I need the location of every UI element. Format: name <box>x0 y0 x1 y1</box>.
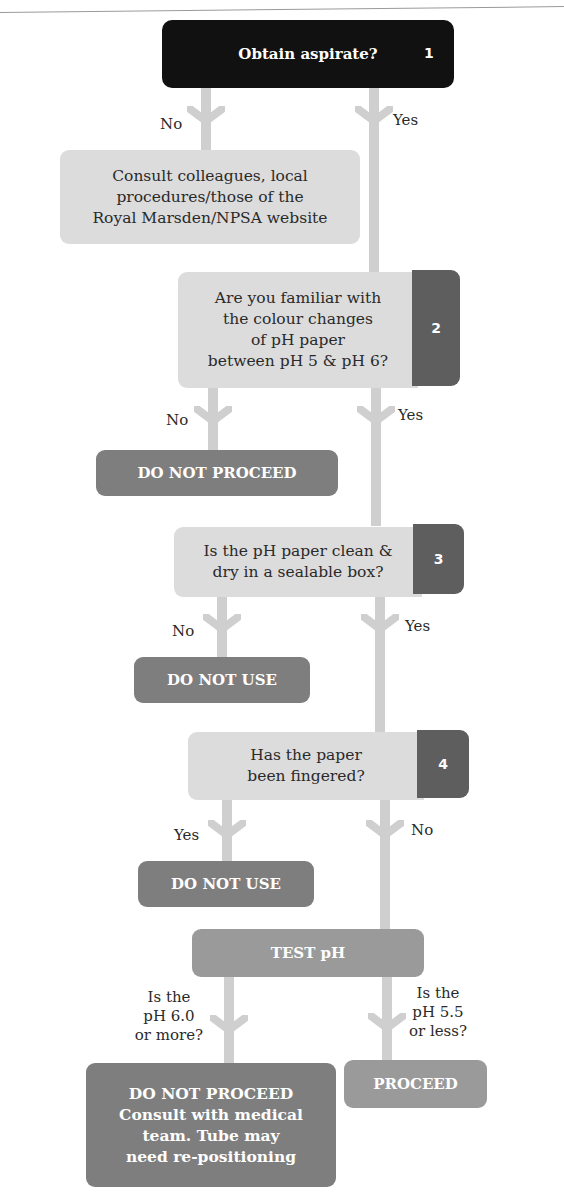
chevron-down-icon <box>357 406 395 426</box>
step-2-line: of pH paper <box>251 330 345 351</box>
chevron-down-icon <box>355 106 393 126</box>
proceed-box: PROCEED <box>344 1060 487 1108</box>
consult-box: Consult colleagues, local procedures/tho… <box>60 150 360 244</box>
high-ph-result-line: DO NOT PROCEED <box>129 1083 293 1104</box>
step-3-line: dry in a sealable box? <box>213 562 384 583</box>
chevron-down-icon <box>203 614 241 634</box>
chevron-down-icon <box>366 820 404 840</box>
chevron-down-icon <box>368 1013 406 1033</box>
step-2-no-label: No <box>166 411 188 430</box>
test-ph-box: TEST pH <box>192 929 424 977</box>
consult-line: Consult colleagues, local <box>112 166 308 187</box>
step-2-box: Are you familiar with the colour changes… <box>178 272 418 388</box>
chevron-down-icon <box>194 406 232 426</box>
do-not-use-text: DO NOT USE <box>171 874 281 894</box>
high-ph-result-box: DO NOT PROCEED Consult with medical team… <box>86 1063 336 1187</box>
chevron-down-icon <box>187 106 225 126</box>
step-1-box: Obtain aspirate? <box>162 20 454 88</box>
low-ph-label-line: or less? <box>402 1022 474 1041</box>
step-4-line: been fingered? <box>247 766 364 787</box>
step-2-line: Are you familiar with <box>215 288 381 309</box>
high-ph-label-line: pH 6.0 <box>124 1007 214 1026</box>
do-not-use-box-1: DO NOT USE <box>134 657 310 703</box>
do-not-proceed-box: DO NOT PROCEED <box>96 450 338 496</box>
step-2-number-tab: 2 <box>412 270 460 386</box>
proceed-text: PROCEED <box>373 1075 458 1093</box>
step-3-line: Is the pH paper clean & <box>203 541 392 562</box>
chevron-down-icon <box>208 820 246 840</box>
step-4-number: 4 <box>438 756 448 772</box>
connector-right-main-d <box>380 797 390 931</box>
high-ph-label-line: or more? <box>124 1026 214 1045</box>
consult-line: procedures/those of the <box>116 187 303 208</box>
step-3-no-label: No <box>172 622 194 641</box>
high-ph-label: Is the pH 6.0 or more? <box>124 988 214 1045</box>
chevron-down-icon <box>210 1015 248 1035</box>
do-not-proceed-text: DO NOT PROCEED <box>137 463 296 483</box>
page-divider <box>0 6 564 13</box>
chevron-down-icon <box>361 614 399 634</box>
step-1-number: 1 <box>424 45 434 61</box>
do-not-use-text: DO NOT USE <box>167 670 277 690</box>
step-4-number-tab: 4 <box>417 730 469 798</box>
do-not-use-box-2: DO NOT USE <box>138 861 314 907</box>
step-3-number: 3 <box>434 551 444 567</box>
step-3-box: Is the pH paper clean & dry in a sealabl… <box>174 527 422 597</box>
test-ph-text: TEST pH <box>271 944 345 962</box>
step-1-yes-label: Yes <box>393 111 418 130</box>
step-3-yes-label: Yes <box>405 617 430 636</box>
low-ph-label-line: Is the <box>402 984 474 1003</box>
step-1-question: Obtain aspirate? <box>238 45 377 63</box>
step-2-yes-label: Yes <box>398 406 423 425</box>
step-4-yes-label: Yes <box>174 826 199 845</box>
consult-line: Royal Marsden/NPSA website <box>92 208 327 229</box>
step-3-number-tab: 3 <box>413 524 464 594</box>
high-ph-label-line: Is the <box>124 988 214 1007</box>
step-4-box: Has the paper been fingered? <box>188 732 424 800</box>
step-2-line: between pH 5 & pH 6? <box>208 351 388 372</box>
step-4-line: Has the paper <box>250 745 362 766</box>
step-2-number: 2 <box>431 320 441 336</box>
low-ph-label-line: pH 5.5 <box>402 1003 474 1022</box>
high-ph-result-line: team. Tube may <box>142 1125 279 1146</box>
high-ph-result-line: Consult with medical <box>119 1104 303 1125</box>
high-ph-result-line: need re-positioning <box>126 1146 296 1167</box>
step-2-line: the colour changes <box>223 309 373 330</box>
step-4-no-label: No <box>411 821 433 840</box>
low-ph-label: Is the pH 5.5 or less? <box>402 984 474 1041</box>
step-1-no-label: No <box>160 115 182 134</box>
